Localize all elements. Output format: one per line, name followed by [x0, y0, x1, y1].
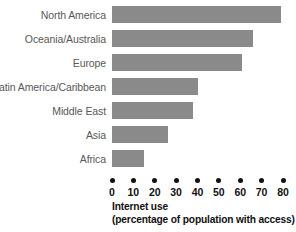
bar-oceania-australia — [112, 30, 253, 47]
x-axis-tick-dot — [174, 178, 179, 183]
category-label: Middle East — [0, 99, 106, 123]
bar-africa — [112, 150, 144, 167]
x-axis-tick-dot — [216, 178, 221, 183]
bar-row: Europe — [0, 51, 296, 75]
category-label: Europe — [0, 51, 106, 75]
bar-row: Oceania/Australia — [0, 27, 296, 51]
x-axis-tick-dot — [259, 178, 264, 183]
bar-row: Middle East — [0, 99, 296, 123]
bar-row: North America — [0, 3, 296, 27]
x-axis-tick-label: 80 — [263, 186, 296, 198]
x-axis-title: Internet use (percentage of population w… — [112, 200, 296, 226]
bar-north-america — [112, 6, 281, 23]
x-axis-tick-dot — [281, 178, 286, 183]
category-label: North America — [0, 3, 106, 27]
x-axis-tick-dot — [152, 178, 157, 183]
bar-row: Africa — [0, 147, 296, 171]
category-label: Africa — [0, 147, 106, 171]
category-label: Oceania/Australia — [0, 27, 106, 51]
bar-middle-east — [112, 102, 193, 119]
x-axis-title-line1: Internet use — [112, 200, 296, 213]
bar-asia — [112, 126, 168, 143]
x-axis-title-line2: (percentage of population with access) — [112, 213, 296, 226]
x-axis-tick-dot — [131, 178, 136, 183]
category-label: Asia — [0, 123, 106, 147]
x-axis-tick-dot — [110, 178, 115, 183]
bar-row: Latin America/Caribbean — [0, 75, 296, 99]
bar-europe — [112, 54, 242, 71]
x-axis-tick-labels: 01020304050607080 — [0, 186, 296, 200]
bar-latin-america-caribbean — [112, 78, 198, 95]
bar-chart: North America Oceania/Australia Europe L… — [0, 0, 296, 232]
bar-row: Asia — [0, 123, 296, 147]
x-axis-tick-dot — [195, 178, 200, 183]
x-axis-tick-dot — [238, 178, 243, 183]
category-label: Latin America/Caribbean — [0, 75, 106, 99]
